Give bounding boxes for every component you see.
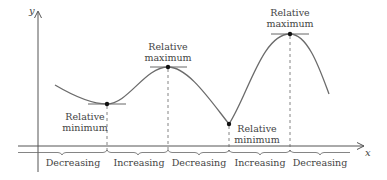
y-axis-label: y: [29, 5, 35, 16]
annotation-relative-maximum-1: Relative maximum: [143, 41, 193, 63]
annotation-line2: minimum: [232, 134, 282, 145]
extrema-points: [105, 32, 292, 126]
relative-minimum-point: [105, 102, 109, 106]
annotation-relative-minimum-2: Relative minimum: [232, 123, 282, 145]
annotation-line2: maximum: [143, 52, 193, 63]
annotation-line2: maximum: [265, 18, 315, 29]
annotation-line1: Relative: [143, 41, 193, 52]
annotation-relative-minimum-1: Relative minimum: [60, 111, 110, 133]
x-axis-label: x: [365, 147, 371, 158]
annotation-line2: minimum: [60, 122, 110, 133]
interval-label-1: Decreasing: [38, 157, 108, 168]
interval-label-3: Decreasing: [164, 157, 234, 168]
annotation-line1: Relative: [232, 123, 282, 134]
annotation-line1: Relative: [60, 111, 110, 122]
annotation-relative-maximum-2: Relative maximum: [265, 7, 315, 29]
relative-maximum-point: [288, 32, 292, 36]
annotation-line1: Relative: [265, 7, 315, 18]
relative-maximum-point: [166, 65, 170, 69]
interval-label-5: Decreasing: [285, 157, 355, 168]
interval-braces: [18, 150, 350, 155]
function-extrema-diagram: [0, 0, 387, 180]
relative-minimum-point: [227, 122, 231, 126]
tangent-lines: [88, 34, 309, 104]
